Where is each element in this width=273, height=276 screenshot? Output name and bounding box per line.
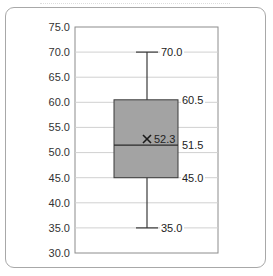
y-tick: 40.0 bbox=[49, 197, 70, 209]
y-tick: 60.0 bbox=[49, 96, 70, 108]
y-tick: 65.0 bbox=[49, 71, 70, 83]
box-plot-chart: 75.0 70.0 65.0 60.0 55.0 50.0 45.0 40.0 … bbox=[0, 0, 273, 276]
y-tick: 55.0 bbox=[49, 121, 70, 133]
mean-label: 52.3 bbox=[154, 133, 175, 145]
y-tick: 75.0 bbox=[49, 21, 70, 33]
y-tick: 70.0 bbox=[49, 46, 70, 58]
y-tick: 45.0 bbox=[49, 172, 70, 184]
min-label: 35.0 bbox=[161, 222, 182, 234]
y-tick: 35.0 bbox=[49, 222, 70, 234]
y-tick: 30.0 bbox=[49, 247, 70, 259]
max-label: 70.0 bbox=[161, 46, 182, 58]
median-label: 51.5 bbox=[182, 139, 203, 151]
q3-label: 60.5 bbox=[182, 94, 203, 106]
q1-label: 45.0 bbox=[182, 172, 203, 184]
y-axis-labels: 75.0 70.0 65.0 60.0 55.0 50.0 45.0 40.0 … bbox=[49, 21, 70, 259]
y-tick: 50.0 bbox=[49, 146, 70, 158]
